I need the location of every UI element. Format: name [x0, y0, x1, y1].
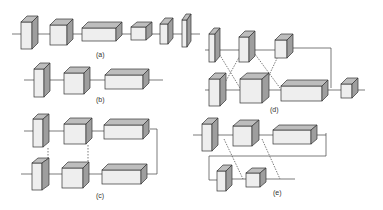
block-c4: [32, 158, 49, 190]
panel-b-label: (b): [96, 96, 105, 104]
block-c6: [102, 164, 147, 184]
block-a1: [21, 16, 38, 49]
block-c3: [104, 119, 149, 139]
block-a5: [160, 18, 173, 44]
block-d6: [281, 80, 328, 101]
panel-a: (a): [12, 14, 200, 59]
block-d5: [240, 73, 269, 103]
architecture-diagram: (a) (b): [0, 0, 383, 210]
block-e2: [233, 120, 259, 146]
block-d1: [209, 28, 220, 62]
panel-e-label: (e): [273, 189, 282, 197]
panel-e: (e): [193, 118, 326, 197]
panel-d: (d): [205, 28, 365, 114]
block-e1: [202, 118, 218, 151]
panel-d-label: (d): [270, 106, 279, 114]
block-d7: [341, 78, 358, 98]
panel-c: (c): [21, 114, 157, 200]
block-b3: [105, 69, 149, 89]
block-e4: [217, 165, 232, 191]
block-e5: [246, 168, 266, 187]
block-a4: [131, 22, 152, 40]
panel-a-label: (a): [96, 51, 105, 59]
block-b1: [34, 63, 50, 97]
block-e3: [273, 125, 317, 144]
block-d2: [239, 31, 255, 62]
block-d3: [275, 34, 293, 58]
block-a3: [82, 22, 122, 41]
block-c1: [33, 114, 49, 147]
block-c2: [64, 118, 92, 144]
block-c5: [62, 162, 89, 188]
panel-c-label: (c): [96, 192, 104, 200]
block-d4: [209, 73, 226, 106]
block-b2: [64, 67, 90, 94]
block-a6: [182, 14, 191, 47]
block-a2: [50, 19, 73, 45]
panel-b: (b): [24, 63, 163, 104]
